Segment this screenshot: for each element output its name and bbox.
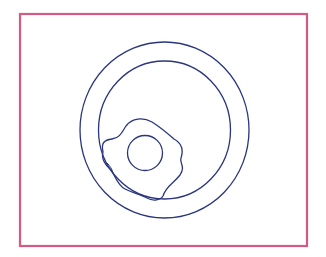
inner-circle [99, 61, 231, 199]
cell-membrane [102, 119, 182, 200]
cell-nucleus [128, 136, 163, 171]
diagram-canvas [0, 0, 326, 257]
